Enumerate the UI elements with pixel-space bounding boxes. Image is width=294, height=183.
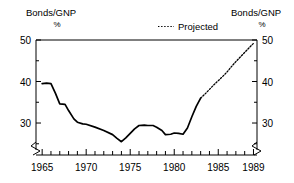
legend: Projected	[158, 21, 218, 32]
y-tick-label-right: 50	[262, 35, 274, 46]
y-tick-label-right: 40	[262, 77, 274, 88]
y-axis-labels-right: 304050	[262, 35, 274, 129]
series-line-actual	[42, 83, 200, 142]
x-tick-label: 1975	[119, 162, 142, 173]
left-axis-title: Bonds/GNP	[26, 7, 76, 18]
bonds-gnp-line-chart: Bonds/GNP % Bonds/GNP % Projected 304050…	[0, 0, 294, 183]
x-tick-label: 1980	[163, 162, 186, 173]
y-tick-label-left: 30	[20, 118, 32, 129]
x-axis-ticks	[42, 149, 253, 155]
x-axis-labels: 196519701975198019851989	[31, 162, 265, 173]
series-line-projected	[201, 43, 254, 98]
axis-frame	[36, 40, 257, 150]
x-tick-label: 1970	[75, 162, 98, 173]
x-tick-label: 1965	[31, 162, 54, 173]
right-axis-percent-symbol: %	[258, 20, 265, 29]
x-tick-label: 1989	[242, 162, 265, 173]
y-tick-label-left: 40	[20, 77, 32, 88]
legend-label-projected: Projected	[178, 21, 218, 32]
y-tick-label-left: 50	[20, 35, 32, 46]
x-tick-label: 1985	[207, 162, 230, 173]
y-axis-ticks	[36, 40, 257, 144]
right-axis-title: Bonds/GNP	[231, 7, 281, 18]
y-tick-label-right: 30	[262, 118, 274, 129]
y-axis-labels-left: 304050	[20, 35, 32, 129]
left-axis-percent-symbol: %	[53, 20, 60, 29]
